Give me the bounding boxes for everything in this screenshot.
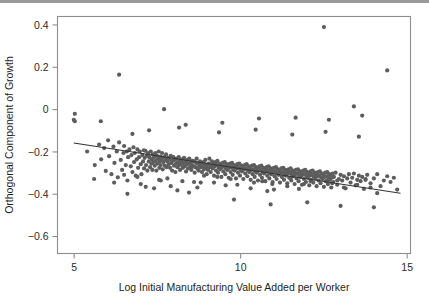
data-point bbox=[215, 175, 219, 179]
data-point bbox=[352, 171, 356, 175]
data-point bbox=[347, 172, 351, 176]
x-axis-ticks: 51015 bbox=[71, 254, 413, 273]
data-point bbox=[249, 178, 253, 182]
data-point bbox=[357, 135, 361, 139]
data-point bbox=[224, 183, 228, 187]
data-point bbox=[245, 174, 249, 178]
data-point bbox=[318, 181, 322, 185]
data-point bbox=[348, 181, 352, 185]
x-axis-title: Log Initial Manufacturing Value Added pe… bbox=[119, 281, 350, 293]
data-point bbox=[265, 189, 269, 193]
data-point bbox=[378, 184, 382, 188]
data-point bbox=[275, 177, 279, 181]
data-point bbox=[131, 145, 135, 149]
data-point bbox=[150, 168, 154, 172]
data-point bbox=[97, 142, 101, 146]
data-point bbox=[217, 130, 221, 134]
y-axis-ticks: 0.40.20−0.2−0.4−0.6 bbox=[28, 19, 58, 243]
data-point bbox=[173, 170, 177, 174]
data-point bbox=[112, 181, 116, 185]
data-point bbox=[329, 185, 333, 189]
data-point bbox=[278, 181, 282, 185]
data-point bbox=[195, 157, 199, 161]
data-point bbox=[92, 177, 96, 181]
figure-container: 51015 0.40.20−0.2−0.4−0.6 Log Initial Ma… bbox=[0, 0, 429, 298]
data-point bbox=[375, 191, 379, 195]
data-point bbox=[372, 176, 376, 180]
data-point bbox=[180, 179, 184, 183]
data-point bbox=[160, 151, 164, 155]
data-point bbox=[136, 166, 140, 170]
data-point bbox=[130, 132, 134, 136]
y-tick-label: 0.4 bbox=[34, 19, 49, 31]
data-point bbox=[231, 173, 235, 177]
data-point bbox=[184, 123, 188, 127]
data-point bbox=[161, 167, 165, 171]
data-point bbox=[290, 132, 294, 136]
data-point bbox=[285, 184, 289, 188]
data-point bbox=[119, 158, 123, 162]
data-point bbox=[385, 174, 389, 178]
data-point bbox=[267, 176, 271, 180]
data-point bbox=[99, 119, 103, 123]
y-tick-label: −0.2 bbox=[28, 146, 49, 158]
data-point bbox=[249, 186, 253, 190]
data-point bbox=[307, 183, 311, 187]
data-point bbox=[106, 138, 110, 142]
data-point bbox=[124, 163, 128, 167]
data-point bbox=[257, 116, 261, 120]
data-point bbox=[220, 121, 224, 125]
data-point bbox=[254, 128, 258, 132]
data-point bbox=[135, 175, 139, 179]
data-point bbox=[192, 180, 196, 184]
data-point bbox=[159, 178, 163, 182]
data-point bbox=[147, 128, 151, 132]
data-point bbox=[352, 104, 356, 108]
data-point bbox=[175, 188, 179, 192]
y-tick-label: −0.4 bbox=[28, 188, 49, 200]
data-point bbox=[144, 185, 148, 189]
data-point bbox=[219, 175, 223, 179]
data-point bbox=[253, 175, 257, 179]
data-point bbox=[232, 197, 236, 201]
data-point bbox=[187, 190, 191, 194]
data-point bbox=[260, 179, 264, 183]
x-tick-label: 15 bbox=[401, 261, 413, 273]
data-point bbox=[235, 183, 239, 187]
data-point bbox=[363, 178, 367, 182]
data-point bbox=[314, 184, 318, 188]
data-point bbox=[342, 185, 346, 189]
data-point bbox=[327, 118, 331, 122]
data-point bbox=[99, 157, 103, 161]
data-point bbox=[169, 184, 173, 188]
data-point bbox=[112, 161, 116, 165]
data-point bbox=[122, 144, 126, 148]
data-point bbox=[209, 170, 213, 174]
data-point bbox=[368, 181, 372, 185]
data-point bbox=[125, 178, 129, 182]
data-point bbox=[372, 205, 376, 209]
data-point bbox=[238, 174, 242, 178]
y-tick-label: −0.6 bbox=[28, 230, 49, 242]
data-point bbox=[144, 163, 148, 167]
data-point bbox=[85, 149, 89, 153]
data-point bbox=[145, 168, 149, 172]
data-point bbox=[322, 25, 326, 29]
data-point bbox=[116, 175, 120, 179]
data-point bbox=[294, 116, 298, 120]
data-point bbox=[212, 181, 216, 185]
data-point bbox=[282, 178, 286, 182]
data-point bbox=[189, 168, 193, 172]
data-point bbox=[269, 202, 273, 206]
data-point bbox=[388, 180, 392, 184]
data-point bbox=[332, 175, 336, 179]
data-point bbox=[139, 172, 143, 176]
data-point bbox=[130, 170, 134, 174]
plot-frame bbox=[58, 17, 411, 254]
data-point bbox=[360, 113, 364, 117]
y-tick-label: 0 bbox=[43, 103, 49, 115]
data-point bbox=[395, 187, 399, 191]
data-point bbox=[129, 164, 133, 168]
data-point bbox=[323, 130, 327, 134]
data-point bbox=[107, 154, 111, 158]
